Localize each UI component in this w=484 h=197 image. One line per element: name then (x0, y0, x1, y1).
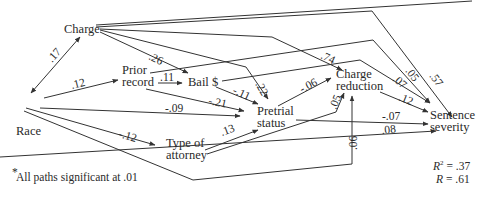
r-squared-value: = .37 (444, 160, 471, 172)
r-squared: R2 = .37 (432, 159, 470, 172)
coef-prior-pretrial: -.21 (208, 94, 229, 110)
node-charge: Charge (64, 22, 100, 36)
edge-charge-sentence-57 (96, 1, 472, 25)
node-bail: Bail $ (188, 75, 218, 89)
coef-race-reduction: .06 (347, 135, 359, 150)
model-stats: R2 = .37 R = .61 (432, 159, 470, 185)
coef-race-charge: .17 (45, 45, 64, 64)
coef-reduction-sentence: .12 (397, 91, 415, 108)
r-correlation: R = .61 (435, 173, 470, 185)
coef-race-attorney: -.12 (117, 127, 138, 144)
coef-attorney-pretrial: .13 (219, 122, 237, 138)
coef-attorney-reduction: .05 (327, 93, 344, 111)
node-race: Race (16, 124, 41, 138)
r-symbol: R (435, 173, 443, 185)
coef-bail-pretrial: -.11 (231, 84, 252, 102)
edge-attorney-sentence (0, 131, 436, 157)
path-diagram: Charge Race Prior record Bail $ Pretrial… (0, 0, 484, 197)
coef-race-pretrial: -.09 (165, 102, 183, 114)
coef-charge-bail: .26 (147, 50, 165, 67)
edge-race-pretrial (40, 108, 240, 116)
node-reduction-line2: reduction (336, 79, 384, 93)
edge-prior-sentence (150, 40, 430, 103)
r-value: = .61 (443, 173, 470, 185)
node-sentence-line2: severity (430, 120, 470, 134)
coef-attorney-sentence: .08 (381, 123, 397, 136)
coef-pretrial-reduction: -.06 (297, 76, 319, 95)
r-squared-symbol: R (432, 160, 440, 172)
node-pretrial-line2: status (257, 116, 286, 130)
coef-charge-sentence-57: .57 (427, 70, 445, 89)
footnote-text: All paths significant at .01 (16, 171, 138, 184)
node-prior-record-line2: record (122, 75, 155, 89)
node-attorney-line2: attorney (166, 148, 208, 162)
footnote: * All paths significant at .01 (12, 166, 138, 184)
edge-pretrial-sentence (296, 120, 428, 124)
coef-pretrial-sentence: -.07 (382, 110, 400, 122)
coef-prior-bail: .11 (160, 71, 174, 83)
